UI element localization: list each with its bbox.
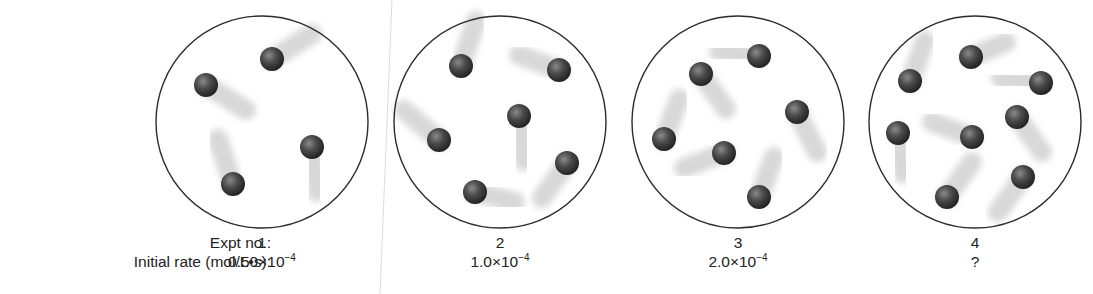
molecule-particle: [960, 125, 984, 149]
molecule-particle: [427, 128, 451, 152]
molecule-particle: [1011, 165, 1035, 189]
expt-3-number: 3: [734, 234, 743, 252]
molecule-particle: [959, 45, 983, 69]
expt-3-rate: 2.0×10−4: [708, 253, 767, 271]
vessel-outline: [156, 16, 368, 228]
molecule-particle: [652, 127, 676, 151]
molecule-particle: [712, 141, 736, 165]
expt-1-number: 1: [258, 234, 267, 252]
reaction-vessel-2: [394, 16, 606, 228]
molecule-particle: [747, 185, 771, 209]
molecule-particle: [785, 100, 809, 124]
molecule-particle: [886, 121, 910, 145]
molecule-particle: [1005, 105, 1029, 129]
molecule-particle: [935, 185, 959, 209]
molecule-particle: [555, 151, 579, 175]
molecule-particle: [221, 172, 245, 196]
expt-4-number: 4: [971, 234, 980, 252]
reaction-vessel-3: [632, 16, 844, 228]
expt-2-rate: 1.0×10−4: [470, 253, 529, 271]
molecule-particle: [194, 73, 218, 97]
expt-1-rate: 0.50×10−4: [228, 253, 296, 271]
molecule-particle: [463, 180, 487, 204]
molecule-particle: [547, 58, 571, 82]
page-divider-line: [380, 0, 392, 294]
reaction-vessel-4: [869, 16, 1081, 228]
molecule-particle: [300, 135, 324, 159]
molecule-particle: [449, 54, 473, 78]
molecule-particle: [747, 44, 771, 68]
molecule-particle: [1029, 71, 1053, 95]
expt-4-rate-unknown: ?: [971, 253, 980, 271]
molecule-particle: [260, 47, 284, 71]
molecule-particle: [689, 62, 713, 86]
molecule-particle: [507, 104, 531, 128]
reaction-rate-diagram: [0, 0, 1093, 294]
reaction-vessel-1: [156, 16, 368, 228]
expt-2-number: 2: [496, 234, 505, 252]
molecule-particle: [898, 69, 922, 93]
